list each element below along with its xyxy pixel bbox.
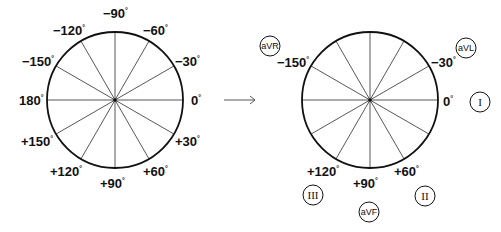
lead-badge-i: I — [470, 92, 490, 112]
angle-label: +120° — [307, 164, 339, 179]
angle-value: −30 — [431, 55, 453, 70]
transform-arrow — [224, 96, 255, 104]
degree-symbol: ° — [125, 7, 128, 14]
degree-symbol: ° — [198, 94, 201, 101]
angle-value: +120 — [50, 164, 79, 179]
angle-label: 0° — [443, 94, 453, 109]
angle-value: 180 — [19, 93, 41, 108]
angle-value: 0 — [191, 93, 198, 108]
angle-value: −150 — [277, 55, 306, 70]
degree-symbol: ° — [197, 135, 200, 142]
angle-value: 0 — [443, 94, 450, 109]
lead-name: I — [478, 96, 482, 108]
angle-label: −90° — [103, 6, 128, 21]
angle-value: −150 — [22, 54, 51, 69]
lead-name: II — [421, 190, 429, 202]
degree-symbol: ° — [79, 165, 82, 172]
lead-name: aVF — [361, 207, 378, 217]
right-angle-labels: −150°−30°0°+120°+90°+60° — [277, 55, 456, 191]
angle-value: +30 — [175, 134, 197, 149]
angle-label: +150° — [21, 134, 53, 149]
degree-symbol: ° — [453, 56, 456, 63]
angle-label: +90° — [353, 176, 378, 191]
degree-symbol: ° — [82, 24, 85, 31]
right-center-dot — [368, 98, 372, 102]
angle-label: 180° — [19, 93, 44, 108]
angle-value: −30 — [175, 54, 197, 69]
angle-label: −150° — [277, 55, 309, 70]
angle-value: +60 — [394, 164, 416, 179]
angle-label: +120° — [50, 164, 82, 179]
lead-badge-avl: aVL — [456, 38, 476, 58]
angle-label: +60° — [143, 164, 168, 179]
degree-symbol: ° — [51, 55, 54, 62]
degree-symbol: ° — [306, 56, 309, 63]
angle-label: −150° — [22, 54, 54, 69]
left-center-dot — [113, 98, 117, 102]
angle-label: −120° — [53, 23, 85, 38]
lead-name: III — [308, 189, 319, 201]
angle-value: +120 — [307, 164, 336, 179]
degree-symbol: ° — [375, 177, 378, 184]
degree-symbol: ° — [336, 165, 339, 172]
angle-label: −30° — [175, 54, 200, 69]
degree-symbol: ° — [122, 177, 125, 184]
lead-badge-iii: III — [303, 185, 323, 205]
angle-label: −30° — [431, 55, 456, 70]
angle-value: +90 — [353, 176, 375, 191]
angle-value: −60 — [143, 23, 165, 38]
lead-badge-avf: aVF — [359, 202, 379, 222]
angle-value: +60 — [143, 164, 165, 179]
right-axis-wheel: −150°−30°0°+120°+90°+60° aVRaVLIIIIIIaVF — [260, 32, 490, 222]
angle-label: −60° — [143, 23, 168, 38]
degree-symbol: ° — [416, 165, 419, 172]
angle-value: −120 — [53, 23, 82, 38]
degree-symbol: ° — [41, 94, 44, 101]
angle-label: +30° — [175, 134, 200, 149]
degree-symbol: ° — [450, 95, 453, 102]
angle-value: −90 — [103, 6, 125, 21]
lead-name: aVL — [458, 43, 474, 53]
degree-symbol: ° — [50, 135, 53, 142]
degree-symbol: ° — [165, 24, 168, 31]
angle-label: +90° — [100, 176, 125, 191]
angle-value: +150 — [21, 134, 50, 149]
angle-value: +90 — [100, 176, 122, 191]
lead-badge-avr: aVR — [260, 36, 280, 56]
angle-label: 0° — [191, 93, 201, 108]
lead-name: aVR — [261, 41, 279, 51]
degree-symbol: ° — [197, 55, 200, 62]
lead-badge-ii: II — [415, 186, 435, 206]
angle-label: +60° — [394, 164, 419, 179]
hexaxial-diagram: −90°−60°−30°0°+30°+60°+90°+120°+150°180°… — [0, 0, 501, 232]
left-axis-wheel: −90°−60°−30°0°+30°+60°+90°+120°+150°180°… — [19, 6, 201, 191]
degree-symbol: ° — [165, 165, 168, 172]
